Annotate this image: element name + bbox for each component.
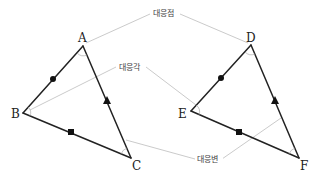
leader-point-to-A	[86, 14, 150, 43]
vertex-label-b: B	[11, 107, 20, 121]
vertex-label-f: F	[300, 159, 308, 173]
square-marker-bc	[68, 129, 74, 135]
vertex-label-c: C	[132, 159, 141, 173]
leader-point-to-D	[180, 14, 248, 43]
triangle-marker-df	[271, 96, 279, 104]
angle-arc-f	[289, 148, 295, 154]
triangle-def: D E F	[178, 31, 308, 173]
callout-corresponding-points: 대응점	[153, 8, 174, 18]
callout-leaders	[30, 14, 281, 159]
circle-marker-ab	[50, 76, 56, 82]
square-marker-ef	[236, 129, 242, 135]
vertex-label-a: A	[77, 31, 87, 45]
leader-angle-to-E	[146, 67, 196, 105]
angle-arc-c	[121, 148, 127, 154]
leader-side-to-DF	[222, 118, 281, 159]
vertex-label-e: E	[178, 107, 187, 121]
vertex-label-d: D	[246, 31, 256, 45]
leader-angle-to-B	[30, 67, 116, 110]
callout-corresponding-sides: 대응변	[197, 154, 218, 164]
congruent-triangles-diagram: A B C D E F 대응점 대응각 대응변	[0, 0, 322, 181]
circle-marker-de	[218, 75, 224, 81]
callout-labels: 대응점 대응각 대응변	[117, 7, 223, 165]
leader-side-to-AC	[126, 140, 195, 159]
triangle-abc: A B C	[11, 31, 141, 173]
callout-corresponding-angles: 대응각	[119, 62, 141, 72]
